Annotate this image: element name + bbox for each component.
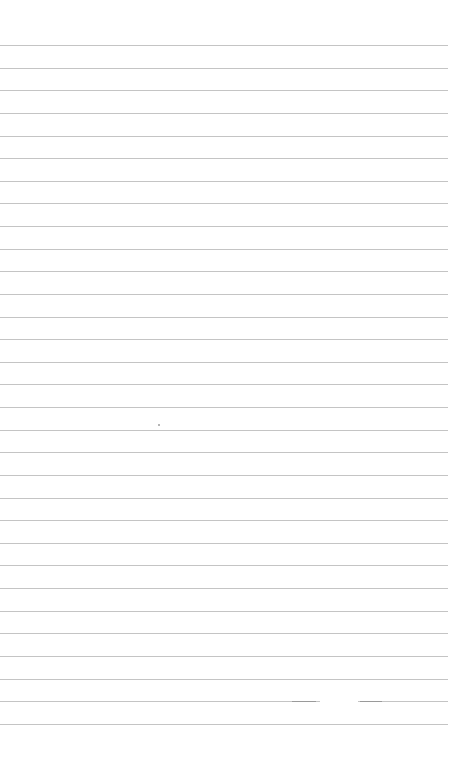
ruled-line — [0, 181, 448, 182]
lined-paper-page — [0, 0, 452, 780]
ruled-line — [0, 475, 448, 476]
ruled-line — [0, 249, 448, 250]
ruled-line — [0, 203, 448, 204]
ruled-line — [0, 45, 448, 46]
ruled-line-darker-segment — [360, 701, 382, 702]
ruled-line — [0, 611, 448, 612]
ruled-line — [0, 656, 448, 657]
stray-dot — [158, 424, 160, 426]
ruled-line — [0, 543, 448, 544]
ruled-line — [0, 384, 448, 385]
ruled-line — [0, 430, 448, 431]
ruled-line-darker-segment — [292, 701, 316, 702]
ruled-line — [0, 565, 448, 566]
ruled-line — [0, 452, 448, 453]
ruled-line — [0, 679, 448, 680]
ruled-line — [0, 633, 448, 634]
ruled-line — [0, 90, 448, 91]
ruled-line — [0, 498, 448, 499]
ruled-line-segment — [0, 701, 320, 702]
ruled-line — [0, 724, 448, 725]
ruled-line — [0, 407, 448, 408]
ruled-line — [0, 520, 448, 521]
ruled-line — [0, 317, 448, 318]
ruled-line — [0, 362, 448, 363]
ruled-line — [0, 339, 448, 340]
ruled-line — [0, 226, 448, 227]
ruled-line — [0, 68, 448, 69]
ruled-line — [0, 113, 448, 114]
ruled-line — [0, 136, 448, 137]
ruled-line — [0, 588, 448, 589]
ruled-line — [0, 294, 448, 295]
ruled-line — [0, 271, 448, 272]
ruled-line — [0, 158, 448, 159]
